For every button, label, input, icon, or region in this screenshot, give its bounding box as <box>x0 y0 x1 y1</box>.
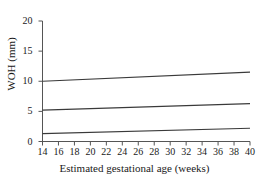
chart-figure: WOH (mm) Estimated gestational age (week… <box>0 0 269 183</box>
series-line-median <box>43 104 251 111</box>
y-axis-ticks <box>39 21 43 142</box>
x-tick-label: 20 <box>82 147 98 157</box>
x-tick-label: 36 <box>210 147 226 157</box>
x-tick-label: 22 <box>98 147 114 157</box>
x-tick-label: 34 <box>194 147 210 157</box>
x-tick-label: 38 <box>226 147 242 157</box>
x-tick-label: 32 <box>178 147 194 157</box>
y-tick-label: 20 <box>13 16 33 26</box>
x-tick-label: 14 <box>35 147 51 157</box>
chart-plot-area: WOH (mm) Estimated gestational age (week… <box>0 0 269 183</box>
y-tick-label: 10 <box>13 76 33 86</box>
x-tick-label: 26 <box>130 147 146 157</box>
axes <box>43 21 251 142</box>
x-tick-label: 30 <box>162 147 178 157</box>
data-series-lines <box>43 72 251 133</box>
y-tick-label: 0 <box>13 137 33 147</box>
y-tick-label: 15 <box>13 46 33 56</box>
series-line-lower-centile <box>43 128 251 133</box>
x-tick-label: 28 <box>146 147 162 157</box>
x-axis-ticks <box>43 142 251 146</box>
x-tick-label: 40 <box>242 147 258 157</box>
y-tick-label: 5 <box>13 106 33 116</box>
series-line-upper-centile <box>43 72 251 81</box>
x-tick-label: 24 <box>114 147 130 157</box>
x-tick-label: 16 <box>50 147 66 157</box>
x-tick-label: 18 <box>66 147 82 157</box>
